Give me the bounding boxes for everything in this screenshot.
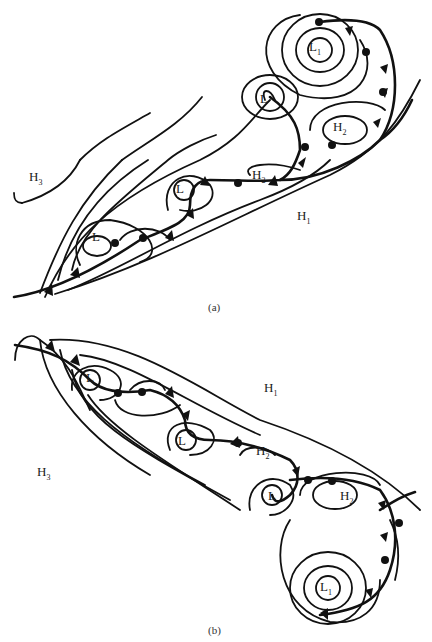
low-pressure-label: L1 xyxy=(309,40,321,57)
high-pressure-label: H3 xyxy=(37,465,50,482)
high-pressure-label: H2 xyxy=(252,168,265,185)
low-pressure-label: L xyxy=(86,371,94,384)
panel-b-caption: (b) xyxy=(208,624,221,636)
high-pressure-label: H2 xyxy=(340,489,353,506)
panel-b-isobars xyxy=(0,320,432,642)
low-pressure-label: L xyxy=(178,434,186,447)
weather-map-figure: L1 L H2 H2 H1 H3 L L (a) xyxy=(0,0,432,642)
high-pressure-label: H3 xyxy=(29,170,42,187)
low-pressure-label: L xyxy=(260,92,268,105)
high-pressure-label: H1 xyxy=(264,381,277,398)
low-pressure-label: L1 xyxy=(320,580,332,597)
high-pressure-label: H1 xyxy=(297,209,310,226)
panel-a-isobars xyxy=(0,0,432,320)
high-pressure-label: H2 xyxy=(333,120,346,137)
low-pressure-label: L xyxy=(268,489,276,502)
panel-a-caption: (a) xyxy=(208,301,220,313)
high-pressure-label: H2 xyxy=(256,444,269,461)
low-pressure-label: L xyxy=(92,230,100,243)
low-pressure-label: L xyxy=(176,182,184,195)
